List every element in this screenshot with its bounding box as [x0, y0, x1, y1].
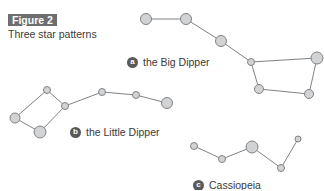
- star-icon: [311, 52, 323, 64]
- connector-line: [281, 139, 298, 168]
- connector-line: [251, 58, 317, 62]
- star-icon: [141, 14, 152, 25]
- star-icon: [10, 113, 20, 123]
- star-icon: [246, 141, 258, 153]
- label-little-dipper: b the Little Dipper: [70, 126, 160, 138]
- star-icon: [133, 92, 140, 99]
- star-icon: [99, 89, 106, 96]
- connector-line: [102, 92, 136, 95]
- connector-line: [65, 92, 102, 106]
- connector-line: [259, 89, 309, 94]
- label-cassiopeia: c Cassiopeia: [193, 179, 261, 190]
- connector-line: [194, 146, 222, 159]
- pattern-name: the Little Dipper: [86, 126, 160, 138]
- star-icon: [44, 87, 51, 94]
- star-icon: [278, 165, 285, 172]
- letter-marker-b: b: [70, 127, 81, 138]
- star-icon: [255, 85, 264, 94]
- pattern-name: the Big Dipper: [143, 56, 210, 68]
- star-icon: [62, 103, 69, 110]
- star-icon: [191, 143, 198, 150]
- constellation-c: [191, 136, 302, 172]
- star-icon: [248, 59, 255, 66]
- label-big-dipper: a the Big Dipper: [127, 56, 210, 68]
- star-icon: [219, 156, 226, 163]
- star-icon: [295, 136, 301, 142]
- letter-marker-c: c: [193, 180, 204, 191]
- star-patterns-diagram: [0, 0, 324, 190]
- connector-line: [186, 19, 221, 41]
- star-icon: [305, 90, 314, 99]
- star-icon: [162, 98, 173, 109]
- star-icon: [216, 36, 227, 47]
- star-icon: [34, 126, 46, 138]
- letter-marker-a: a: [127, 57, 138, 68]
- star-icon: [181, 14, 192, 25]
- connector-line: [15, 90, 47, 118]
- pattern-name: Cassiopeia: [209, 179, 261, 190]
